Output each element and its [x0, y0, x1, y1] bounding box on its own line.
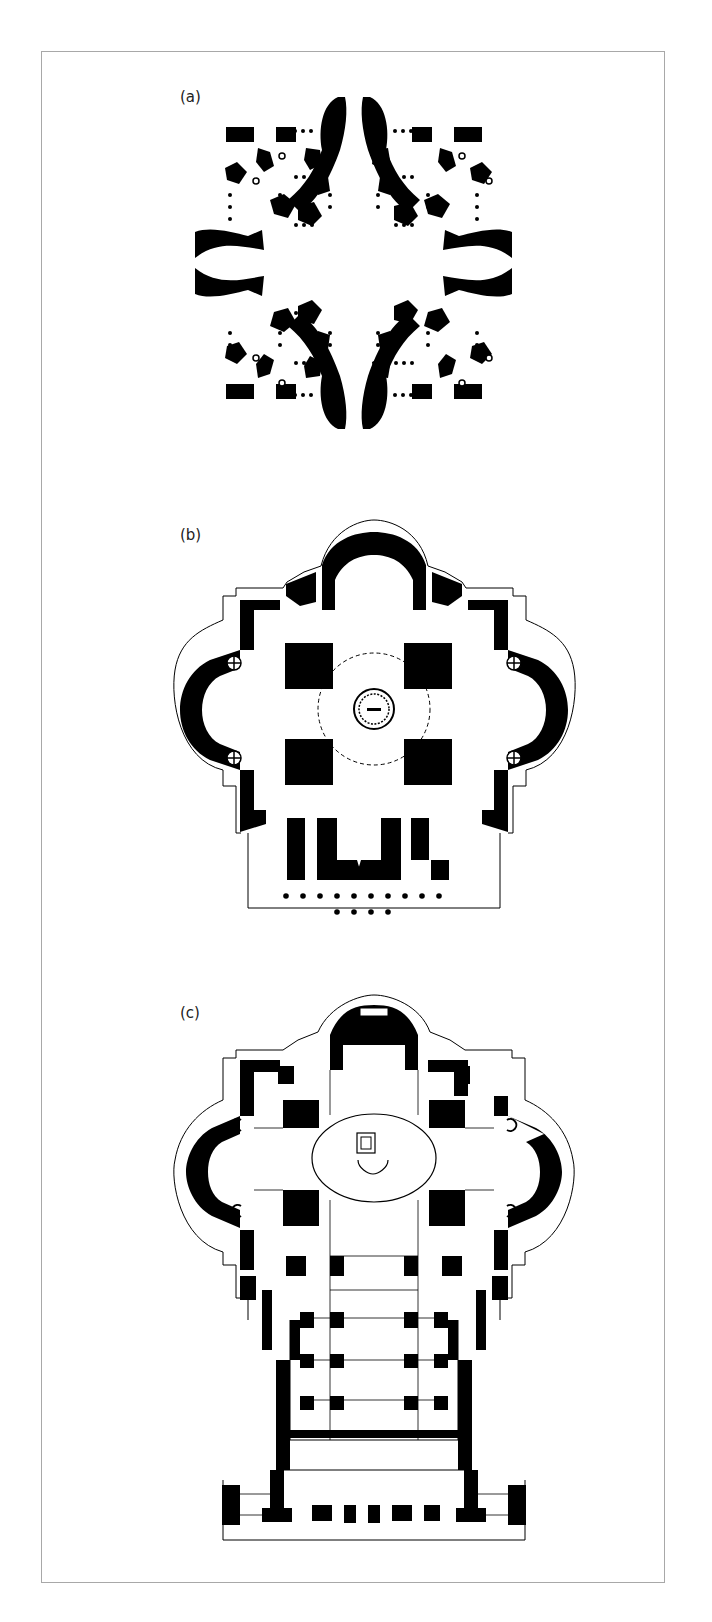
plan-c-diagram [0, 0, 712, 1622]
